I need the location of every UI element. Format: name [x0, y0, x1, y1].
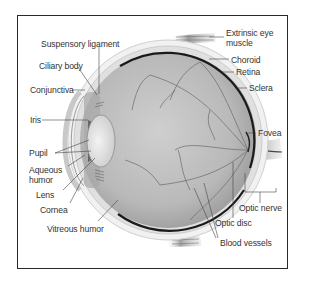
label-vitreous-humor: Vitreous humor: [47, 225, 104, 234]
label-cornea: Cornea: [40, 206, 68, 215]
label-ciliary-body: Ciliary body: [39, 62, 83, 71]
label-lens: Lens: [36, 191, 54, 200]
label-extrinsic-eye-muscle-line2: muscle: [226, 39, 253, 48]
label-aqueous-humor-line1: Aqueous: [29, 166, 62, 175]
label-sclera: Sclera: [249, 84, 273, 93]
label-blood-vessels: Blood vessels: [220, 239, 272, 248]
label-optic-nerve: Optic nerve: [239, 204, 282, 213]
label-choroid: Choroid: [231, 56, 260, 65]
lens-shape: [87, 115, 115, 167]
label-retina: Retina: [236, 68, 260, 77]
label-fovea: Fovea: [258, 129, 281, 138]
label-extrinsic-eye-muscle-line1: Extrinsic eye: [226, 29, 273, 38]
label-conjunctiva: Conjunctiva: [30, 86, 74, 95]
label-suspensory-ligament: Suspensory ligament: [41, 40, 119, 49]
label-iris: Iris: [30, 116, 41, 125]
label-optic-disc: Optic disc: [215, 219, 252, 228]
label-pupil: Pupil: [29, 149, 48, 158]
label-aqueous-humor-line2: humor: [29, 176, 53, 185]
